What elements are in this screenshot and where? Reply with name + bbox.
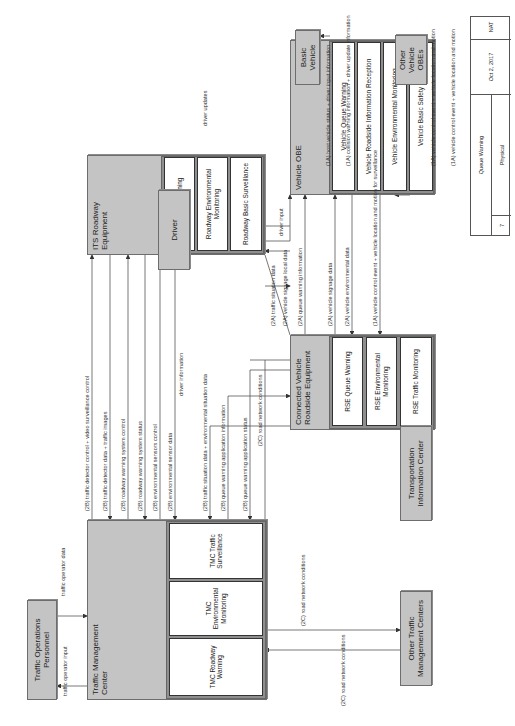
driver-box[interactable]: Driver	[158, 190, 190, 270]
diagram-date: Oct 2, 2017	[471, 40, 511, 95]
cv-roadside-equipment-box[interactable]: Connected Vehicle Roadside Equipment RSE…	[290, 335, 435, 430]
node-label: ITS Roadway Equipment	[91, 190, 109, 250]
flow-label: (1A) vehicle control event + vehicle loc…	[450, 29, 457, 166]
node-label: Connected Vehicle Roadside Equipment	[294, 345, 312, 425]
diagram-view: Physical	[491, 95, 511, 215]
flow-label: (2B) traffic detector control + video su…	[84, 376, 91, 511]
other-vehicle-obes-box[interactable]: Other Vehicle OBEs	[395, 35, 427, 85]
flow-label: (1A) host vehicle status + driver input …	[325, 45, 332, 166]
tmc-subsystem-group: TMC Roadway Warning TMC Environmental Mo…	[166, 521, 266, 699]
flow-label: (2C) road network conditions	[340, 634, 347, 706]
flow-label: (1A) vehicle control event + vehicle loc…	[430, 29, 437, 166]
rse-queue-warning-box[interactable]: RSE Queue Warning	[332, 337, 363, 426]
flow-label: driver updates	[202, 91, 209, 126]
tmc-environmental-monitoring-box[interactable]: TMC Environmental Monitoring	[169, 581, 263, 636]
flow-label: (2A) vehicle signage local data	[282, 250, 289, 326]
flow-label: (2B) queue warning application informati…	[220, 405, 227, 511]
flow-label: traffic operator input	[62, 646, 69, 696]
title-block: 7 Queue Warning Physical Oct 2, 2017 NAT	[470, 16, 510, 236]
roadway-environmental-monitoring-box[interactable]: Roadway Environmental Monitoring	[197, 157, 228, 251]
roadway-basic-surveillance-box[interactable]: Roadway Basic Surveillance	[230, 157, 262, 251]
flow-label: (1A) vehicle control event + vehicle loc…	[372, 150, 379, 326]
tmc-roadway-warning-box[interactable]: TMC Roadway Warning	[169, 638, 263, 696]
flow-label: (2B) traffic situation data + environmen…	[202, 374, 209, 511]
diagram-title: Queue Warning	[471, 95, 491, 215]
node-label: Basic Vehicle	[296, 35, 319, 80]
flow-label: (2A) vehicle signage data	[327, 263, 334, 326]
flow-label: (2A) traffic situation data	[270, 265, 277, 326]
diagram-canvas: Traffic Operations Personnel Traffic Man…	[0, 0, 515, 726]
flow-label: (2A) queue warning information	[297, 248, 304, 326]
flow-label: (2C) road network conditions	[300, 554, 307, 626]
other-traffic-management-centers-box[interactable]: Other Traffic Management Centers	[400, 591, 432, 686]
flow-label: traffic operator data	[60, 548, 67, 596]
flow-label: driver input	[278, 208, 285, 236]
flow-label: (2B) roadway warning system control	[120, 419, 127, 511]
flow-label: driver information	[178, 353, 185, 396]
transportation-information-center-box[interactable]: Transportation Information Center	[400, 426, 432, 521]
node-label: Transportation Information Center	[401, 431, 431, 516]
flow-label: (2C) road network conditions	[257, 374, 264, 446]
flow-label: (2B) roadway warning system status	[137, 421, 144, 511]
flow-label: (2B) queue warning application status	[242, 417, 249, 511]
flow-label: (2B) environmental sensor data	[167, 433, 174, 511]
node-label: Other Vehicle OBEs	[396, 40, 426, 80]
tmc-traffic-surveillance-box[interactable]: TMC Traffic Surveillance	[169, 523, 263, 579]
traffic-operations-personnel-box[interactable]: Traffic Operations Personnel	[27, 600, 57, 700]
node-label: Traffic Operations Personnel	[28, 605, 56, 695]
flow-label: (1A) collision warning information + dri…	[345, 15, 352, 166]
basic-vehicle-box[interactable]: Basic Vehicle	[295, 30, 320, 85]
rse-environmental-monitoring-box[interactable]: RSE Environmental Monitoring	[366, 337, 397, 426]
flow-label: (2A) vehicle environmental data	[344, 247, 351, 326]
node-label: Driver	[159, 195, 189, 265]
traffic-management-center-box[interactable]: Traffic Management Center TMC Roadway Wa…	[87, 520, 267, 700]
rse-traffic-monitoring-box[interactable]: RSE Traffic Monitoring	[400, 337, 432, 426]
node-label: Other Traffic Management Centers	[401, 596, 431, 681]
flow-label: (2B) environmental sensors control	[152, 424, 159, 511]
rse-subsystem-group: RSE Queue Warning RSE Environmental Moni…	[329, 336, 434, 429]
diagram-author: NAT	[471, 15, 511, 40]
flow-label: (2B) traffic detector data + traffic ima…	[102, 412, 109, 511]
node-label: Traffic Management Center	[91, 615, 109, 695]
diagram-number: 7	[491, 215, 511, 235]
